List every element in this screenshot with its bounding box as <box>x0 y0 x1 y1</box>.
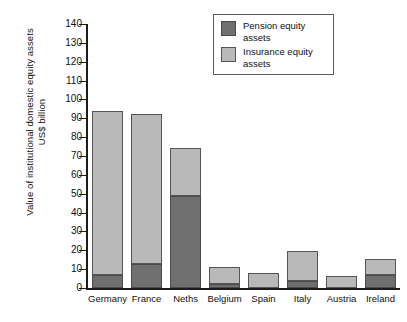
bar-slot <box>361 24 400 288</box>
y-tick-label: 10 <box>71 262 82 275</box>
y-tick-label: 40 <box>71 206 82 219</box>
bar-stack[interactable] <box>131 114 162 288</box>
bar-segment-pension <box>92 275 123 288</box>
y-axis-title: Value of institutional domestic equity a… <box>24 0 48 252</box>
bar-segment-pension <box>170 196 201 288</box>
y-tick-label: 110 <box>66 74 82 87</box>
bar-segment-pension <box>209 284 240 288</box>
legend-label-pension: Pension equity assets <box>243 20 305 43</box>
bar-segment-insurance <box>131 114 162 264</box>
x-axis-label: Neths <box>166 293 205 305</box>
bar-segment-insurance <box>287 251 318 281</box>
y-tick-label: 100 <box>65 92 82 105</box>
bar-slot <box>166 24 205 288</box>
bar-segment-insurance <box>92 111 123 275</box>
bar-segment-insurance <box>170 148 201 195</box>
y-tick-label: 90 <box>71 111 82 124</box>
x-axis-label: Italy <box>283 293 322 305</box>
bar-segment-insurance <box>326 276 357 288</box>
bar-stack[interactable] <box>92 111 123 288</box>
x-axis-label: Austria <box>322 293 361 305</box>
bar-stack[interactable] <box>365 259 396 288</box>
x-axis-category-labels: GermanyFranceNethsBelgiumSpainItalyAustr… <box>88 293 400 305</box>
y-tick-label: 20 <box>71 243 82 256</box>
x-axis-label: Belgium <box>205 293 244 305</box>
x-axis-line <box>86 288 400 290</box>
bar-segment-insurance <box>365 259 396 275</box>
y-tick-label: 130 <box>65 36 82 49</box>
y-tick-label: 60 <box>71 168 82 181</box>
y-tick-label: 140 <box>65 17 82 30</box>
bar-slot <box>127 24 166 288</box>
legend-item-pension: Pension equity assets <box>221 20 327 43</box>
legend-item-insurance: Insurance equity assets <box>221 46 327 69</box>
x-axis-label: France <box>127 293 166 305</box>
y-axis-title-line1: Value of institutional domestic equity a… <box>24 28 35 216</box>
bar-slot <box>88 24 127 288</box>
bar-segment-insurance <box>209 267 240 284</box>
bar-segment-pension <box>365 275 396 288</box>
legend-label-insurance: Insurance equity assets <box>243 46 313 69</box>
x-axis-label: Germany <box>88 293 127 305</box>
x-axis-label: Spain <box>244 293 283 305</box>
y-tick-label: 0 <box>76 281 82 294</box>
bar-stack[interactable] <box>248 273 279 288</box>
y-axis-title-line2: US$ billion <box>36 0 48 252</box>
y-tick-label: 30 <box>71 224 82 237</box>
bar-stack[interactable] <box>326 276 357 288</box>
y-tick-label: 120 <box>65 55 82 68</box>
insurance-swatch-icon <box>221 47 236 62</box>
x-axis-label: Ireland <box>361 293 400 305</box>
y-tick-label: 50 <box>71 187 82 200</box>
pension-swatch-icon <box>221 21 236 36</box>
chart-legend: Pension equity assets Insurance equity a… <box>213 14 334 75</box>
bar-segment-pension <box>131 264 162 289</box>
bar-stack[interactable] <box>287 251 318 288</box>
stacked-bar-chart: Value of institutional domestic equity a… <box>0 0 407 322</box>
bar-segment-pension <box>287 281 318 288</box>
y-tick-label: 70 <box>71 149 82 162</box>
bar-stack[interactable] <box>170 148 201 288</box>
y-tick-label: 80 <box>71 130 82 143</box>
bar-segment-insurance <box>248 273 279 288</box>
bar-stack[interactable] <box>209 267 240 288</box>
